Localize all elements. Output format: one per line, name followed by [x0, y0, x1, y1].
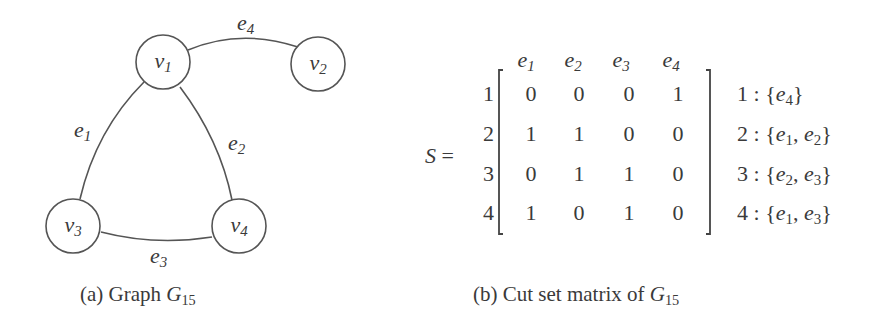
- matrix-cell: 1: [663, 81, 693, 107]
- matrix-cell: 1: [516, 200, 546, 226]
- caption-graph: (a) Graph G15: [80, 282, 196, 307]
- matrix-cell: 1: [564, 121, 594, 147]
- row-label-3: 3: [474, 161, 494, 187]
- matrix-cell: 0: [663, 161, 693, 187]
- cut-set-3: 3 : {e2, e3}: [737, 161, 832, 187]
- cut-set-1: 1 : {e4}: [737, 81, 804, 107]
- edge-label-e4: e4: [237, 10, 254, 36]
- edge-label-e2: e2: [228, 130, 245, 156]
- edge-label-e1: e1: [74, 117, 91, 143]
- matrix-cell: 1: [564, 161, 594, 187]
- matrix-left-bracket: [499, 70, 503, 234]
- edge-label-e3: e3: [150, 243, 167, 269]
- col-header-e2: e2: [558, 47, 588, 73]
- matrix-cell: 0: [614, 81, 644, 107]
- node-label-v4: v4: [212, 212, 266, 238]
- edge-e4: [188, 38, 298, 50]
- matrix-cell: 0: [516, 161, 546, 187]
- matrix-cell: 1: [614, 200, 644, 226]
- row-label-4: 4: [474, 200, 494, 226]
- col-header-e4: e4: [656, 47, 686, 73]
- matrix-cell: 0: [564, 81, 594, 107]
- col-header-e1: e1: [511, 47, 541, 73]
- cut-set-4: 4 : {e1, e3}: [737, 200, 832, 226]
- node-label-v3: v3: [46, 212, 100, 238]
- row-label-2: 2: [474, 121, 494, 147]
- node-label-v2: v2: [291, 50, 345, 76]
- matrix-right-bracket: [706, 70, 710, 234]
- edge-e2: [180, 87, 232, 200]
- edge-e3: [101, 232, 212, 241]
- matrix-cell: 0: [663, 200, 693, 226]
- matrix-name: S =: [425, 143, 454, 169]
- row-label-1: 1: [474, 81, 494, 107]
- matrix-cell: 0: [516, 81, 546, 107]
- matrix-cell: 0: [614, 121, 644, 147]
- matrix-cell: 1: [516, 121, 546, 147]
- matrix-cell: 0: [663, 121, 693, 147]
- matrix-cell: 0: [564, 200, 594, 226]
- node-label-v1: v1: [136, 48, 190, 74]
- col-header-e3: e3: [606, 47, 636, 73]
- caption-matrix: (b) Cut set matrix of G15: [473, 282, 679, 307]
- cut-set-2: 2 : {e1, e2}: [737, 121, 832, 147]
- matrix-cell: 1: [614, 161, 644, 187]
